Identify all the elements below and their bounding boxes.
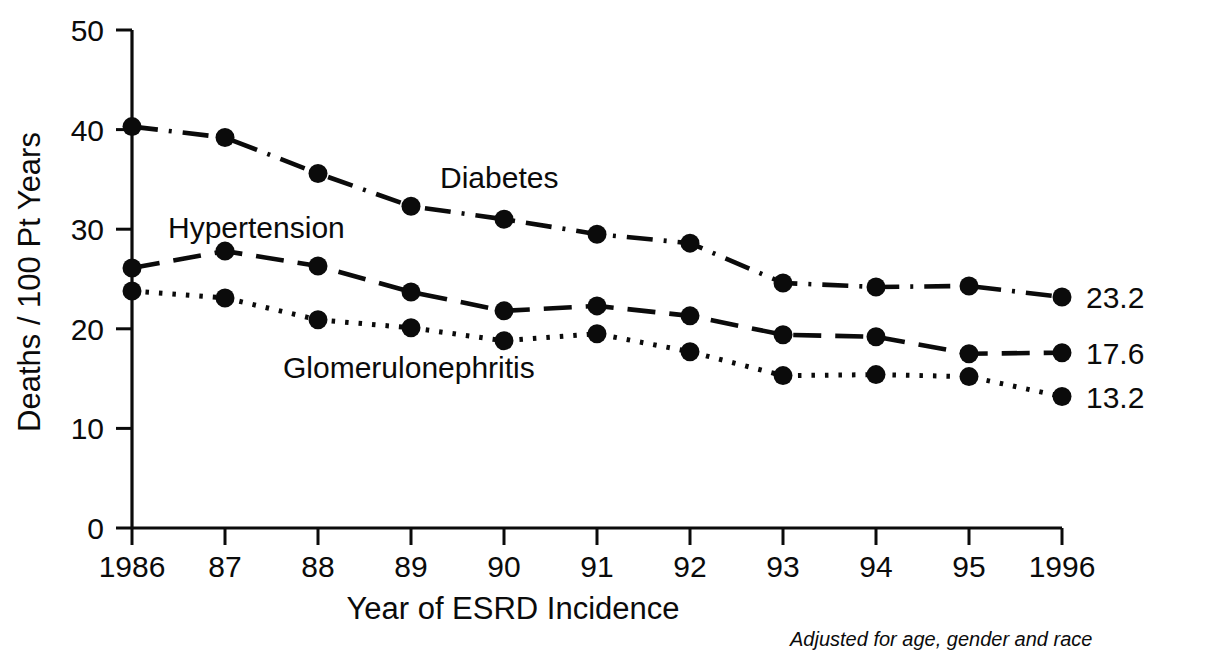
data-point [681, 306, 700, 325]
x-axis-title: Year of ESRD Incidence [346, 591, 679, 626]
x-tick-label: 95 [952, 550, 985, 583]
data-point [774, 366, 793, 385]
series-annotation-hypertension: Hypertension [168, 211, 345, 244]
chart-footnote: Adjusted for age, gender and race [789, 628, 1092, 650]
data-point [309, 257, 328, 276]
series-annotation-diabetes: Diabetes [440, 161, 558, 194]
data-point [1053, 387, 1072, 406]
x-tick-label: 89 [394, 550, 427, 583]
x-tick-label: 92 [673, 550, 706, 583]
y-tick-label: 20 [71, 313, 104, 346]
data-point [402, 318, 421, 337]
y-tick-label: 10 [71, 412, 104, 445]
x-tick-label: 1986 [99, 550, 166, 583]
data-point [402, 282, 421, 301]
data-point [495, 301, 514, 320]
data-point [123, 281, 142, 300]
data-point [123, 259, 142, 278]
data-point [867, 327, 886, 346]
series-end-label-hypertension: 17.6 [1086, 337, 1144, 370]
x-tick-label: 93 [766, 550, 799, 583]
line-chart: 01020304050 19868788899091929394951996 D… [0, 0, 1206, 664]
data-point [1053, 287, 1072, 306]
data-point [309, 164, 328, 183]
x-tick-label: 1996 [1029, 550, 1096, 583]
data-point [588, 225, 607, 244]
y-tick-label: 0 [87, 512, 104, 545]
y-tick-label: 50 [71, 14, 104, 47]
series-markers [123, 117, 1072, 406]
chart-container: 01020304050 19868788899091929394951996 D… [0, 0, 1206, 664]
series-end-label-diabetes: 23.2 [1086, 281, 1144, 314]
x-tick-label: 88 [301, 550, 334, 583]
series-annotations: DiabetesHypertensionGlomerulonephritis [168, 161, 558, 384]
x-axis-ticks: 19868788899091929394951996 [99, 528, 1096, 583]
data-point [867, 365, 886, 384]
x-tick-label: 91 [580, 550, 613, 583]
y-axis-title: Deaths / 100 Pt Years [12, 132, 47, 432]
data-point [588, 324, 607, 343]
data-point [960, 276, 979, 295]
data-point [216, 242, 235, 261]
data-point [681, 342, 700, 361]
data-point [495, 331, 514, 350]
series-lines [132, 127, 1062, 397]
data-point [960, 367, 979, 386]
data-point [681, 234, 700, 253]
x-tick-label: 94 [859, 550, 892, 583]
x-tick-label: 90 [487, 550, 520, 583]
series-annotation-glomerulonephritis: Glomerulonephritis [283, 351, 535, 384]
data-point [309, 310, 328, 329]
axes [132, 30, 1062, 528]
data-point [867, 277, 886, 296]
data-point [588, 296, 607, 315]
data-point [495, 210, 514, 229]
data-point [216, 288, 235, 307]
y-tick-label: 40 [71, 114, 104, 147]
data-point [960, 344, 979, 363]
x-tick-label: 87 [208, 550, 241, 583]
y-tick-label: 30 [71, 213, 104, 246]
data-point [774, 273, 793, 292]
y-axis-ticks: 01020304050 [71, 14, 132, 545]
data-point [402, 197, 421, 216]
data-point [1053, 343, 1072, 362]
data-point [123, 117, 142, 136]
series-end-label-glomerulonephritis: 13.2 [1086, 381, 1144, 414]
series-end-labels: 23.217.613.2 [1086, 281, 1144, 414]
data-point [216, 128, 235, 147]
data-point [774, 325, 793, 344]
